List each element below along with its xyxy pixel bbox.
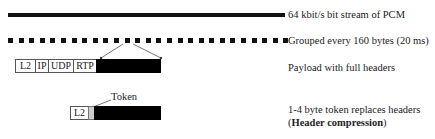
compression-label-line1: 1-4 byte token replaces headers	[288, 104, 420, 116]
header-ip: IP	[35, 59, 49, 73]
full-headers-label: Payload with full headers	[288, 62, 395, 74]
header-udp: UDP	[48, 59, 74, 73]
header-rtp: RTP	[73, 59, 97, 73]
header-compression-term: Header compression	[292, 117, 383, 128]
token-label: Token	[111, 91, 137, 103]
payload-block	[96, 59, 161, 73]
paren-close: )	[383, 117, 387, 128]
compressed-header-l2: L2	[70, 106, 89, 120]
header-l2: L2	[15, 59, 36, 73]
compression-label-line2: (Header compression)	[288, 117, 386, 129]
compressed-payload-block	[94, 106, 161, 120]
